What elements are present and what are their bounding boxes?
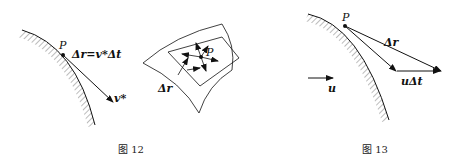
diagram-canvas: P Δr=v*Δt v* P Δr 图 12 P Δr uΔt u 图 13 <box>0 0 455 166</box>
fig12-label-p: P <box>58 39 67 52</box>
fig12-caption: 图 12 <box>118 144 144 155</box>
fig12-label-v: v* <box>114 92 126 105</box>
fig13-caption: 图 13 <box>362 144 388 155</box>
fig13-label-delta-r: Δr <box>383 36 400 49</box>
fig12-label-delta-r-eq: Δr=v*Δt <box>71 48 121 61</box>
fig12-surface <box>143 24 239 113</box>
fig12-label-delta-r: Δr <box>157 82 174 95</box>
fig13-label-u-delta-t: uΔt <box>401 75 423 88</box>
fig12-wall <box>18 30 95 127</box>
fig13-wall <box>305 14 389 122</box>
fig13-label-u: u <box>328 82 336 95</box>
fig13-label-p: P <box>341 11 350 24</box>
